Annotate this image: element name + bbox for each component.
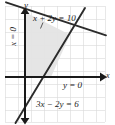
constraint-label-x-equals-0-text: x = 0: [9, 27, 18, 46]
x-axis-label: x: [106, 72, 110, 80]
equation-label-3x-minus-2y: 3x − 2y = 6: [36, 100, 79, 109]
constraint-label-y-equals-0: y = 0: [63, 81, 82, 90]
y-axis-label: y: [24, 1, 28, 10]
x-axis: [5, 73, 107, 82]
constraint-label-x-equals-0: x = 0: [9, 27, 18, 46]
graph-figure: y x x + 2y = 10 3x − 2y = 6 y = 0 x = 0: [0, 0, 115, 125]
equation-label-x-plus-2y: x + 2y = 10: [33, 14, 76, 23]
